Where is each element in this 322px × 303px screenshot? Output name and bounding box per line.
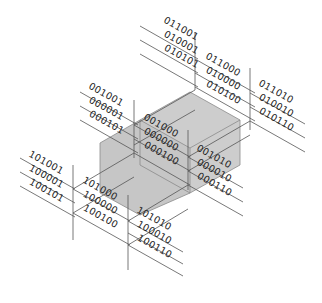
hypercube-diagram: 011001010001010101 011000010000010100 01… [0, 0, 322, 303]
code-labels: 011001010001010101 011000010000010100 01… [15, 14, 308, 260]
